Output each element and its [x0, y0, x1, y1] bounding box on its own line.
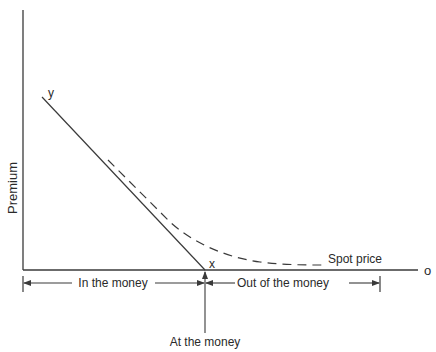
x-axis-end-label: o	[424, 263, 431, 278]
spot-price-label: Spot price	[328, 252, 382, 266]
intrinsic-value-line	[42, 97, 205, 270]
point-x-label: x	[209, 257, 215, 271]
y-axis-label: Premium	[5, 162, 20, 214]
option-premium-curve	[108, 160, 322, 265]
at-the-money-label: At the money	[170, 335, 241, 349]
point-y-label: y	[48, 86, 54, 100]
option-premium-diagram: Premium o y x Spot price In the money Ou…	[0, 0, 436, 352]
out-of-the-money-label: Out of the money	[237, 276, 329, 290]
in-the-money-label: In the money	[78, 276, 147, 290]
